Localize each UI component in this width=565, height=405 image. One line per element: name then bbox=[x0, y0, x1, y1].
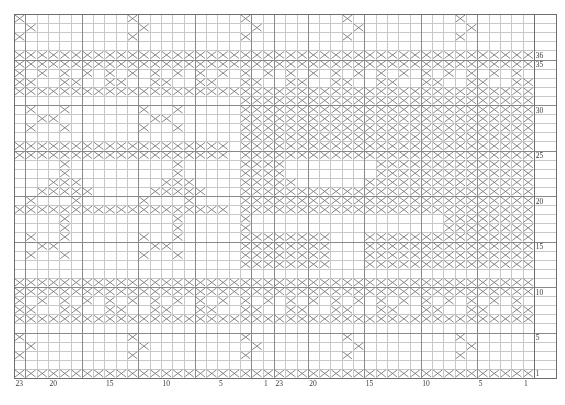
pattern-chart: 363530252015105123201510512320151051 bbox=[0, 0, 565, 405]
chart-grid-canvas bbox=[0, 0, 565, 405]
